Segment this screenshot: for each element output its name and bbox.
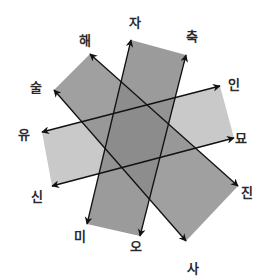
label-yu: 유	[18, 128, 30, 141]
label-o: 오	[130, 240, 142, 253]
label-sin: 신	[31, 190, 43, 203]
label-mi: 미	[74, 230, 86, 243]
label-myo: 묘	[235, 132, 247, 145]
label-sul: 술	[30, 81, 42, 94]
label-chuk: 축	[186, 30, 198, 43]
label-sa: 사	[187, 262, 199, 275]
label-jin: 진	[241, 186, 253, 199]
label-in: 인	[228, 78, 240, 91]
label-ja: 자	[129, 16, 141, 29]
label-hae: 해	[79, 34, 91, 47]
